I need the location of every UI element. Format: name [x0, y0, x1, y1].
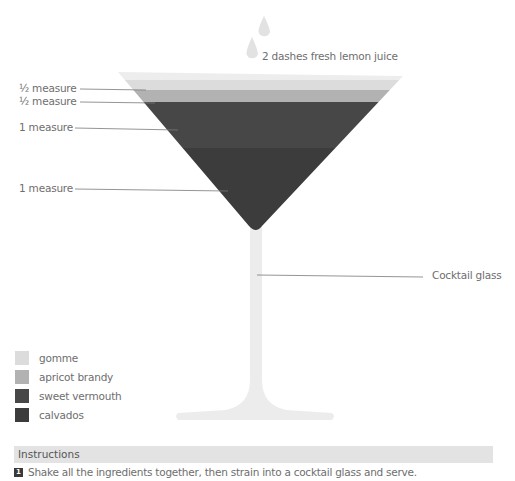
layer-gomme	[100, 80, 420, 90]
glass-bowl	[100, 70, 420, 238]
legend-item-sweet-vermouth: sweet vermouth	[15, 386, 122, 405]
swatch-gomme	[15, 351, 29, 365]
legend-item-calvados: calvados	[15, 405, 122, 424]
measure-label-apricot-brandy: ½ measure	[19, 95, 77, 107]
layer-calvados	[100, 148, 420, 238]
legend-label: apricot brandy	[39, 371, 113, 383]
legend-label: calvados	[39, 409, 84, 421]
legend-label: gomme	[39, 352, 78, 364]
instructions-title: Instructions	[18, 448, 80, 460]
measure-label-gomme: ½ measure	[19, 82, 77, 94]
legend-item-gomme: gomme	[15, 348, 122, 367]
measure-label-calvados: 1 measure	[19, 182, 73, 194]
swatch-sweet-vermouth	[15, 389, 29, 403]
swatch-apricot-brandy	[15, 370, 29, 384]
step-text: Shake all the ingredients together, then…	[28, 466, 417, 478]
layer-apricot-brandy	[100, 90, 420, 102]
glass-label: Cocktail glass	[432, 269, 502, 281]
garnish-label: 2 dashes fresh lemon juice	[262, 50, 398, 62]
legend: gomme apricot brandy sweet vermouth calv…	[15, 348, 122, 424]
instruction-step: 1 Shake all the ingredients together, th…	[14, 466, 417, 478]
legend-item-apricot-brandy: apricot brandy	[15, 367, 122, 386]
layer-sweet-vermouth	[100, 102, 420, 148]
step-number-badge: 1	[14, 468, 23, 477]
instructions-header: Instructions	[14, 446, 493, 463]
legend-label: sweet vermouth	[39, 390, 122, 402]
swatch-calvados	[15, 408, 29, 422]
glass-stem	[176, 226, 334, 420]
measure-label-sweet-vermouth: 1 measure	[19, 121, 73, 133]
